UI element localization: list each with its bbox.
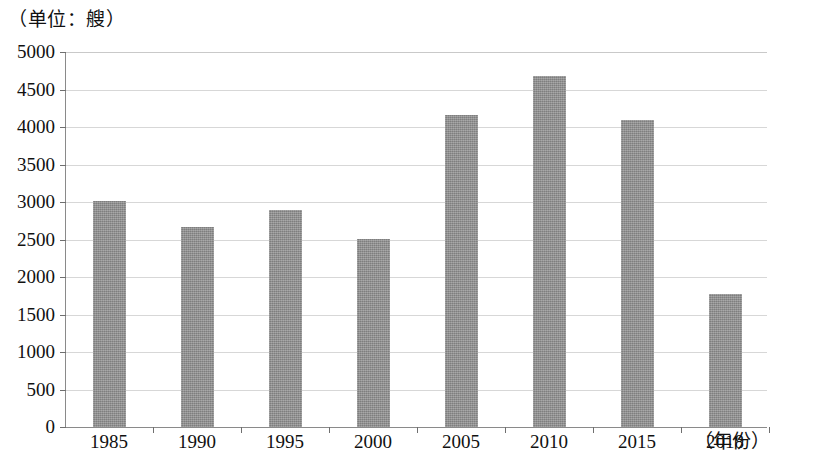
y-axis-tick (60, 165, 66, 166)
x-axis-tick-label: 2018 (706, 430, 744, 454)
y-axis-tick-label: 4500 (17, 80, 55, 99)
y-axis-tick-label: 5000 (17, 42, 55, 61)
y-axis-labels: 0500100015002000250030003500400045005000 (0, 0, 55, 457)
y-axis-tick (60, 52, 66, 53)
x-axis-labels: （年份） 19851990199520002005201020152018 (0, 430, 813, 457)
gridline (65, 427, 767, 428)
bar-2000 (357, 239, 390, 427)
bar-chart-figure: （单位：艘） 050010001500200025003000350040004… (0, 0, 813, 457)
gridline (65, 240, 767, 241)
y-axis-tick-label: 1000 (17, 342, 55, 361)
y-axis-tick-label: 4000 (17, 117, 55, 136)
y-axis-tick (60, 390, 66, 391)
y-axis-tick (60, 427, 66, 428)
gridline (65, 52, 767, 53)
y-axis-tick (60, 127, 66, 128)
y-axis-tick-label: 1500 (17, 305, 55, 324)
y-axis-tick-label: 3000 (17, 192, 55, 211)
y-axis-tick (60, 277, 66, 278)
x-axis-tick-label: 2015 (618, 430, 656, 454)
gridline (65, 352, 767, 353)
y-axis-tick (60, 202, 66, 203)
bar-2005 (445, 115, 478, 427)
y-axis-tick-label: 2500 (17, 230, 55, 249)
y-axis-tick (60, 90, 66, 91)
bar-2010 (533, 76, 566, 427)
gridline (65, 277, 767, 278)
gridline (65, 127, 767, 128)
x-axis-tick-label: 2010 (530, 430, 568, 454)
y-axis-tick (60, 315, 66, 316)
bar-2015 (621, 120, 654, 427)
y-axis-tick (60, 352, 66, 353)
x-axis-tick-label: 2000 (354, 430, 392, 454)
bar-1990 (181, 227, 214, 427)
gridline (65, 390, 767, 391)
plot-area (65, 52, 767, 427)
x-axis-tick-label: 1995 (266, 430, 304, 454)
y-axis-tick (60, 240, 66, 241)
y-axis-tick-label: 2000 (17, 267, 55, 286)
x-axis-tick-label: 1990 (178, 430, 216, 454)
gridline (65, 315, 767, 316)
x-axis-tick-label: 2005 (442, 430, 480, 454)
bar-1995 (269, 210, 302, 428)
gridline (65, 165, 767, 166)
x-axis-tick-label: 1985 (90, 430, 128, 454)
gridline (65, 202, 767, 203)
bar-2018 (709, 294, 742, 427)
gridline (65, 90, 767, 91)
bar-1985 (93, 201, 126, 427)
y-axis-tick-label: 3500 (17, 155, 55, 174)
y-axis-tick-label: 500 (27, 380, 56, 399)
